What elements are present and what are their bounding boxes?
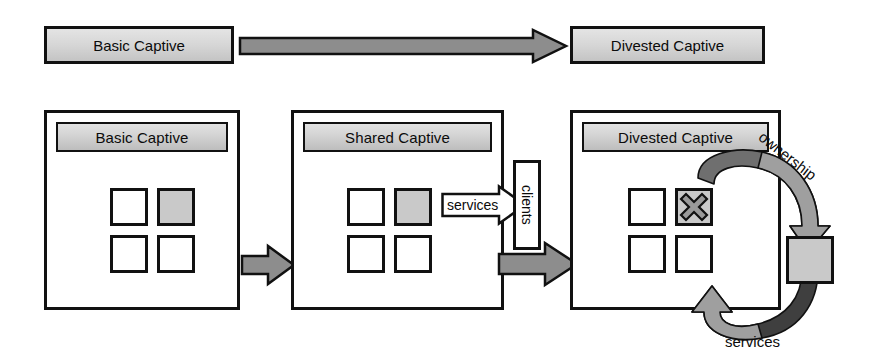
panel-shared-captive-header: Shared Captive [303, 122, 492, 152]
summary-to-label: Divested Captive [611, 37, 724, 54]
summary-transition-arrow [238, 28, 568, 64]
summary-from-box: Basic Captive [44, 26, 234, 64]
unit-top-right-shaded [394, 188, 432, 226]
services-curved-arrow-highlight [692, 286, 762, 340]
services-cycle-label-wrap: services [725, 333, 835, 353]
panel-shared-captive-title: Shared Captive [345, 129, 450, 146]
panel-basic-captive: Basic Captive [44, 110, 240, 310]
summary-from-label: Basic Captive [93, 37, 185, 54]
captive-evolution-diagram: Basic Captive Divested Captive Basic Cap… [0, 0, 881, 363]
unit-bottom-left [347, 235, 385, 273]
panel-basic-captive-header: Basic Captive [56, 122, 228, 152]
services-arrow-label-wrap: services [447, 196, 505, 214]
unit-bottom-right [394, 235, 432, 273]
unit-bottom-left [628, 235, 666, 273]
clients-label: clients [519, 185, 535, 225]
shared-to-divested-arrow [497, 240, 579, 288]
detached-divested-unit [786, 236, 834, 284]
panel-basic-captive-title: Basic Captive [95, 129, 188, 146]
unit-top-left [347, 188, 385, 226]
basic-to-shared-arrow [240, 243, 296, 287]
summary-to-box: Divested Captive [570, 26, 765, 64]
services-cycle-label: services [725, 333, 780, 350]
unit-bottom-left [110, 235, 148, 273]
unit-top-left [628, 188, 666, 226]
unit-top-left [110, 188, 148, 226]
unit-bottom-right [157, 235, 195, 273]
services-outbound-label: services [447, 197, 498, 213]
clients-box: clients [513, 160, 541, 250]
unit-top-right-shaded [157, 188, 195, 226]
